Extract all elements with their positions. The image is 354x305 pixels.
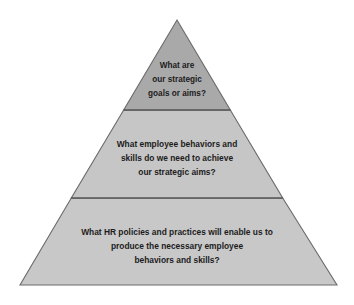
tier-middle-line-1: What employee behaviors and	[117, 139, 238, 149]
tier-top-line-3: goals or aims?	[148, 89, 206, 98]
tier-bottom-line-2: produce the necessary employee	[111, 241, 244, 251]
pyramid-diagram: What are our strategic goals or aims? Wh…	[0, 0, 354, 305]
tier-top-line-1: What are	[160, 61, 195, 70]
tier-middle-line-2: skills do we need to achieve	[121, 153, 234, 163]
tier-bottom-line-3: behaviors and skills?	[134, 255, 219, 265]
tier-bottom-line-1: What HR policies and practices will enab…	[81, 227, 273, 237]
tier-top-line-2: our strategic	[152, 75, 202, 84]
tier-middle-line-3: our strategic aims?	[138, 167, 215, 177]
